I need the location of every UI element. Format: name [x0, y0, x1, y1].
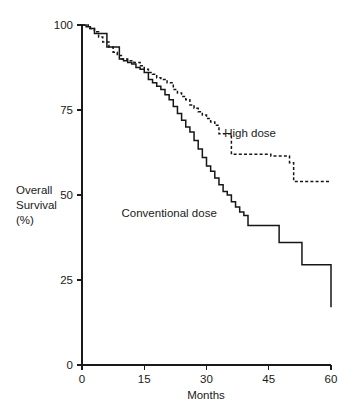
y-axis-title-line-3: (%) [16, 214, 34, 226]
survival-curves [82, 25, 331, 307]
x-tick-label-0: 0 [79, 373, 85, 385]
y-axis-title-line-2: Survival [16, 199, 57, 211]
axes [82, 25, 331, 365]
y-tick-label-75: 75 [60, 104, 73, 116]
annotation-conventional-dose: Conventional dose [122, 207, 217, 219]
x-axis-title: Months [187, 389, 225, 401]
x-tick-label-45: 45 [262, 373, 275, 385]
x-tick-label-30: 30 [200, 373, 213, 385]
y-axis-ticks: 0255075100 [54, 19, 82, 371]
kaplan-meier-plot: 0255075100 015304560 Overall Survival (%… [0, 0, 356, 414]
x-tick-label-60: 60 [325, 373, 338, 385]
survival-chart: 0255075100 015304560 Overall Survival (%… [0, 0, 356, 414]
y-tick-label-100: 100 [54, 19, 73, 31]
y-tick-label-0: 0 [67, 359, 73, 371]
x-tick-label-15: 15 [138, 373, 151, 385]
annotation-high-dose: High dose [224, 127, 276, 139]
y-tick-label-50: 50 [60, 189, 73, 201]
y-axis-title-line-1: Overall [16, 184, 52, 196]
x-axis-ticks: 015304560 [79, 365, 338, 385]
y-axis-title: Overall Survival (%) [16, 184, 57, 226]
y-tick-label-25: 25 [60, 274, 73, 286]
curve-conventional-dose [82, 25, 331, 307]
